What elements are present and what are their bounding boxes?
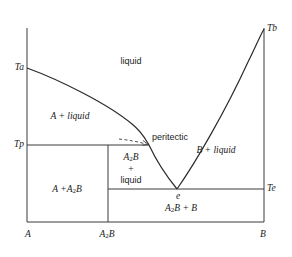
- a2b-liquidus-curve: [149, 145, 177, 189]
- y-tick-label-tb: Tb: [267, 24, 277, 34]
- region-label-a2b-plus-liquid: A2B + liquid: [120, 152, 141, 185]
- y-tick-label-tp: Tp: [14, 140, 24, 150]
- region-label-a-plus-liquid-text: A + liquid: [51, 111, 90, 121]
- region-label-a2b-plus-liquid-line3: liquid: [120, 174, 141, 184]
- region-label-b-plus-liquid: B + liquid: [196, 146, 235, 156]
- eutectic-point-label: e: [176, 192, 180, 202]
- x-tick-label-b: B: [260, 230, 266, 240]
- region-label-liquid: liquid: [120, 57, 141, 66]
- x-tick-label-a2b: A2B: [99, 230, 114, 241]
- region-label-b-plus-liquid-text: B + liquid: [196, 145, 235, 155]
- a-liquidus-curve: [27, 68, 149, 145]
- annotation-label-peritectic: peritectic: [152, 133, 188, 142]
- a2b-plus-b-tail: B + B: [174, 203, 197, 213]
- a2b-tail-1: B: [133, 152, 139, 162]
- region-label-a-plus-liquid: A + liquid: [51, 112, 90, 122]
- region-label-a2b-plus-liquid-line1: A2B: [120, 152, 141, 164]
- a-plus-a2b-pre: A +: [52, 184, 66, 194]
- region-label-a2b-plus-liquid-plus: +: [120, 164, 141, 175]
- phase-diagram-canvas: [0, 0, 292, 257]
- x-a2b-tail: B: [109, 229, 115, 239]
- y-tick-label-ta: Ta: [15, 63, 24, 73]
- b-liquidus-curve: [177, 29, 264, 189]
- region-label-a2b-plus-b: A2B + B: [165, 204, 197, 215]
- a-plus-a2b-tail: B: [76, 184, 82, 194]
- x-tick-label-a: A: [25, 230, 31, 240]
- y-tick-label-te: Te: [267, 184, 276, 194]
- peritectic-leader-arrow: [119, 139, 146, 144]
- phase-diagram-figure: Ta Tp Tb Te liquid A + liquid B + liquid…: [0, 0, 292, 257]
- region-label-a-plus-a2b: A +A2B: [52, 185, 82, 196]
